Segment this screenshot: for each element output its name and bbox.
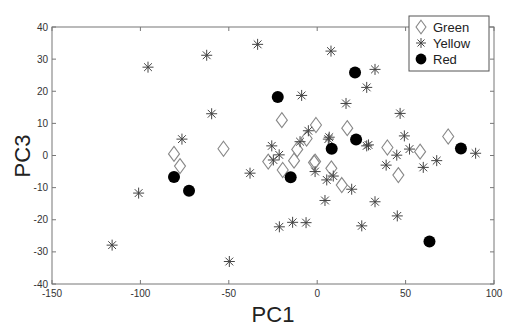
asterisk-marker-icon bbox=[363, 139, 374, 150]
asterisk-marker-icon bbox=[356, 220, 367, 231]
circle-marker-icon bbox=[416, 54, 427, 65]
x-tick-label: -50 bbox=[222, 288, 237, 299]
legend-label: Yellow bbox=[433, 36, 471, 51]
asterisk-marker-icon bbox=[418, 162, 429, 173]
asterisk-marker-icon bbox=[399, 130, 410, 141]
asterisk-marker-icon bbox=[328, 171, 339, 182]
asterisk-marker-icon bbox=[470, 148, 481, 159]
y-tick-label: 30 bbox=[37, 54, 49, 65]
asterisk-marker-icon bbox=[107, 240, 118, 251]
y-tick-label: 40 bbox=[37, 22, 49, 33]
asterisk-marker-icon bbox=[381, 160, 392, 171]
x-tick-label: -100 bbox=[130, 288, 150, 299]
asterisk-marker-icon bbox=[296, 90, 307, 101]
scatter-chart: -150-100-50050100-40-30-20-10010203040 P… bbox=[0, 0, 520, 333]
y-tick-label: -10 bbox=[34, 182, 49, 193]
x-tick-label: 0 bbox=[314, 288, 320, 299]
asterisk-marker-icon bbox=[324, 132, 335, 143]
y-tick-label: 0 bbox=[42, 150, 48, 161]
asterisk-marker-icon bbox=[206, 108, 217, 119]
circle-marker-icon bbox=[349, 67, 361, 79]
asterisk-marker-icon bbox=[303, 125, 314, 136]
circle-marker-icon bbox=[326, 143, 338, 155]
asterisk-marker-icon bbox=[310, 166, 321, 177]
asterisk-marker-icon bbox=[341, 98, 352, 109]
asterisk-marker-icon bbox=[252, 39, 263, 50]
asterisk-marker-icon bbox=[245, 168, 256, 179]
asterisk-marker-icon bbox=[268, 154, 279, 165]
asterisk-marker-icon bbox=[370, 196, 381, 207]
y-tick-label: 20 bbox=[37, 86, 49, 97]
y-tick-label: 10 bbox=[37, 118, 49, 129]
circle-marker-icon bbox=[183, 185, 195, 197]
circle-marker-icon bbox=[285, 171, 297, 183]
asterisk-marker-icon bbox=[416, 38, 426, 48]
asterisk-marker-icon bbox=[361, 140, 372, 151]
asterisk-marker-icon bbox=[346, 184, 357, 195]
legend: GreenYellowRed bbox=[409, 16, 489, 71]
asterisk-marker-icon bbox=[274, 221, 285, 232]
asterisk-marker-icon bbox=[301, 217, 312, 228]
legend-label: Green bbox=[433, 20, 469, 35]
asterisk-marker-icon bbox=[176, 134, 187, 145]
asterisk-marker-icon bbox=[392, 210, 403, 221]
asterisk-marker-icon bbox=[391, 150, 402, 161]
y-axis-title: PC3 bbox=[10, 135, 35, 178]
circle-marker-icon bbox=[272, 91, 284, 103]
circle-marker-icon bbox=[350, 133, 362, 145]
asterisk-marker-icon bbox=[287, 217, 298, 228]
circle-marker-icon bbox=[423, 236, 435, 248]
asterisk-marker-icon bbox=[370, 64, 381, 75]
asterisk-marker-icon bbox=[395, 108, 406, 119]
asterisk-marker-icon bbox=[319, 195, 330, 206]
asterisk-marker-icon bbox=[266, 140, 277, 151]
x-tick-label: 100 bbox=[486, 288, 503, 299]
asterisk-marker-icon bbox=[224, 256, 235, 267]
y-tick-label: -30 bbox=[34, 246, 49, 257]
circle-marker-icon bbox=[168, 171, 180, 183]
asterisk-marker-icon bbox=[431, 155, 442, 166]
legend-item-red: Red bbox=[416, 52, 457, 67]
x-tick-label: -150 bbox=[42, 288, 62, 299]
asterisk-marker-icon bbox=[143, 62, 154, 73]
legend-label: Red bbox=[433, 52, 457, 67]
x-tick-label: 50 bbox=[400, 288, 412, 299]
x-axis-title: PC1 bbox=[252, 302, 295, 327]
asterisk-marker-icon bbox=[404, 144, 415, 155]
circle-marker-icon bbox=[455, 142, 467, 154]
y-tick-label: -40 bbox=[34, 279, 49, 290]
asterisk-marker-icon bbox=[201, 50, 212, 61]
asterisk-marker-icon bbox=[133, 188, 144, 199]
asterisk-marker-icon bbox=[361, 82, 372, 93]
asterisk-marker-icon bbox=[325, 46, 336, 57]
y-tick-label: -20 bbox=[34, 214, 49, 225]
asterisk-marker-icon bbox=[295, 136, 306, 147]
